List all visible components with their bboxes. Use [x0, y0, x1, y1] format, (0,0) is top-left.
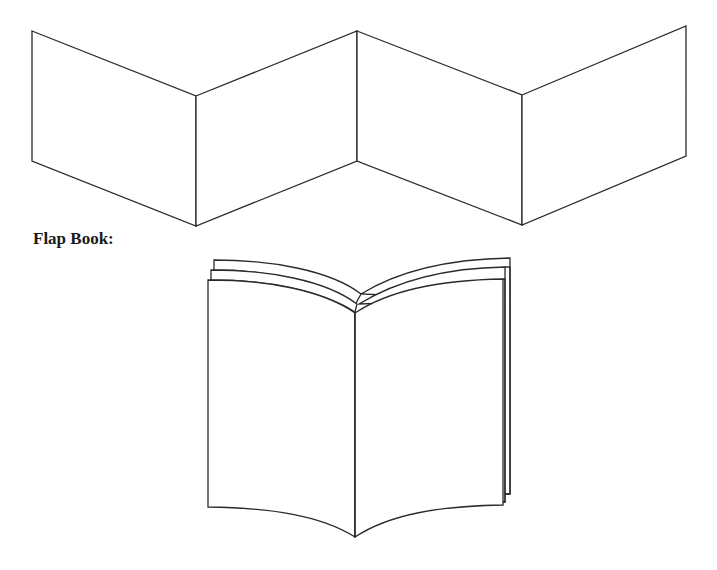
flap-book-label: Flap Book: — [33, 229, 114, 249]
accordion-panel-3 — [357, 31, 522, 225]
accordion-panel-1 — [32, 31, 196, 226]
accordion-panel-4 — [522, 26, 686, 225]
accordion-book — [32, 26, 686, 226]
flap-book — [208, 258, 510, 537]
front-page-right — [355, 279, 503, 537]
front-page-left — [208, 280, 355, 537]
accordion-panel-2 — [196, 31, 357, 226]
book-diagrams — [0, 0, 717, 570]
